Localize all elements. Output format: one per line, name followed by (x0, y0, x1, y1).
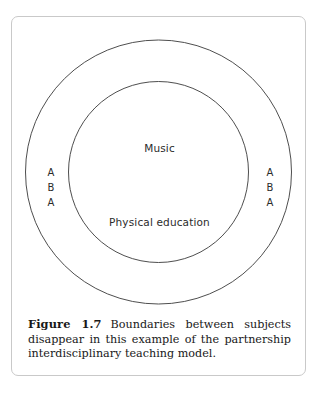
diagram-area: Music Physical education A B A A B A (12, 17, 307, 309)
outer-circle (26, 40, 292, 304)
figure-caption: Figure 1.7Boundaries between subjects di… (28, 317, 291, 362)
aba-left-letter-1: A (41, 165, 61, 180)
aba-right-letter-3: A (260, 195, 280, 210)
aba-left-letter-3: A (41, 195, 61, 210)
label-physical-education: Physical education (12, 216, 307, 229)
aba-right-letter-1: A (260, 165, 280, 180)
figure-card: Music Physical education A B A A B A Fig… (11, 16, 306, 376)
concentric-circles-diagram (12, 17, 307, 309)
inner-circle (69, 82, 249, 263)
aba-right-letter-2: B (260, 180, 280, 195)
label-music: Music (12, 142, 307, 155)
figure-caption-number: Figure 1.7 (28, 317, 102, 331)
aba-left-letter-2: B (41, 180, 61, 195)
aba-label-left: A B A (41, 165, 61, 210)
aba-label-right: A B A (260, 165, 280, 210)
